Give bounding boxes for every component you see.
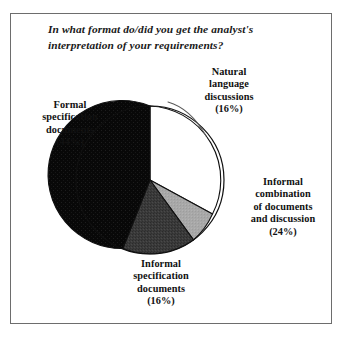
pie-label-percent: (16%) bbox=[112, 295, 210, 307]
pie-label-line: combination bbox=[234, 188, 332, 200]
pie-label-line: language bbox=[186, 78, 272, 90]
pie-label-line: discussions bbox=[186, 91, 272, 103]
pie-label-formal-specification: Formal specification documents (44%) bbox=[22, 99, 118, 149]
pie-label-percent: (44%) bbox=[22, 136, 118, 148]
pie-label-line: Informal bbox=[112, 258, 210, 270]
pie-label-percent: (24%) bbox=[234, 226, 332, 238]
pie-label-informal-specification: Informal specification documents (16%) bbox=[112, 258, 210, 308]
chart-title: In what format do/did you get the analys… bbox=[48, 22, 298, 53]
pie-label-percent: (16%) bbox=[186, 103, 272, 115]
pie-label-natural-language: Natural language discussions (16%) bbox=[186, 66, 272, 116]
pie-label-line: of documents bbox=[234, 201, 332, 213]
pie-label-line: Informal bbox=[234, 176, 332, 188]
pie-label-informal-combination: Informal combination of documents and di… bbox=[234, 176, 332, 238]
pie-label-line: Formal bbox=[22, 99, 118, 111]
pie-label-line: documents bbox=[22, 124, 118, 136]
pie-label-line: documents bbox=[112, 283, 210, 295]
pie-label-line: specification bbox=[22, 111, 118, 123]
pie-label-line: and discussion bbox=[234, 213, 332, 225]
pie-label-line: Natural bbox=[186, 66, 272, 78]
pie-label-line: specification bbox=[112, 270, 210, 282]
